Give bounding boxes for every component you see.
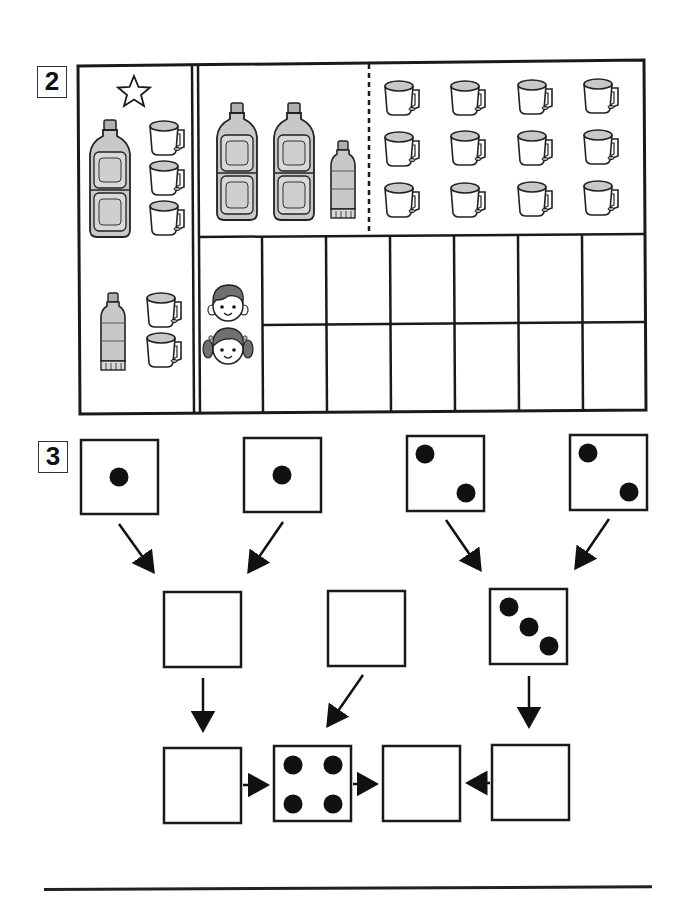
items-panel [217, 79, 618, 220]
die-box-e [164, 592, 241, 667]
big-bottle-icon [274, 103, 314, 220]
die-box-h [164, 748, 241, 823]
mug-icon [147, 333, 181, 367]
mug-icon [150, 161, 184, 195]
cups-grid [385, 79, 618, 217]
mug-icon [150, 201, 184, 235]
worksheet-canvas [0, 0, 682, 908]
mug-icon [150, 121, 184, 155]
star-icon [118, 76, 150, 106]
boy-face-icon [208, 285, 248, 321]
dice-tree [81, 435, 647, 823]
big-bottle-icon [90, 120, 130, 237]
reference-panel [90, 76, 184, 370]
small-bottle-icon [331, 141, 355, 218]
die-box-f [328, 591, 405, 666]
answer-grid [262, 235, 645, 412]
girl-face-icon [203, 328, 253, 364]
mug-icon [147, 293, 181, 327]
die-box-k [492, 745, 569, 820]
big-bottle-icon [217, 103, 257, 220]
small-bottle-icon [101, 293, 125, 370]
die-box-j [383, 746, 460, 821]
